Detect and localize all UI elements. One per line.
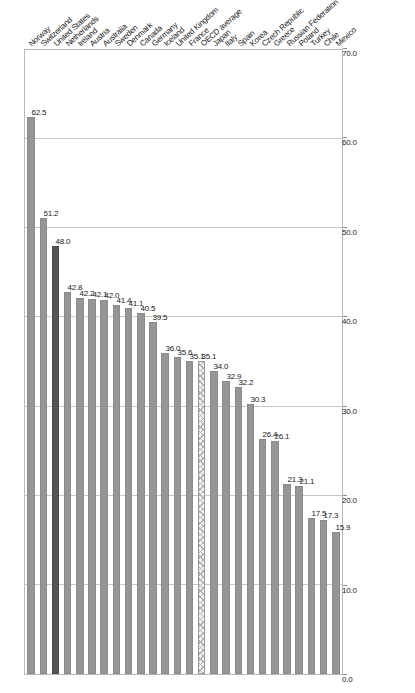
plot-area: 62.551.248.042.842.242.142.041.441.140.5…	[24, 49, 343, 675]
category-label-united-kingdom: United Kingdom	[174, 5, 220, 48]
bar-greece[interactable]	[271, 441, 279, 674]
category-label-greece: Greece	[272, 25, 297, 48]
bar-austria[interactable]	[88, 299, 96, 674]
axis-tick-label: 0.0	[342, 675, 353, 684]
bar-switzerland[interactable]	[40, 218, 48, 674]
bar-row: 17.5	[305, 50, 317, 674]
category-label-denmark: Denmark	[125, 21, 154, 48]
bar-row: 48.0	[49, 50, 61, 674]
bar-row: 62.5	[25, 50, 37, 674]
bar-ireland[interactable]	[76, 298, 84, 674]
bar-oecd-average[interactable]	[198, 361, 206, 674]
category-label-japan: Japan	[211, 28, 232, 49]
bar-spain[interactable]	[235, 387, 243, 674]
category-label-korea: Korea	[248, 28, 269, 48]
axis-tick-label: 60.0	[342, 138, 357, 147]
bar-row: 15.9	[330, 50, 342, 674]
bar-mexico[interactable]	[332, 532, 340, 674]
axis-tick-label: 20.0	[342, 496, 357, 505]
category-label-switzerland: Switzerland	[39, 15, 74, 48]
axis-tick-mark	[343, 406, 347, 407]
bar-row: 32.9	[220, 50, 232, 674]
bar-row: 34.0	[208, 50, 220, 674]
axis-tick-mark	[343, 316, 347, 317]
category-label-oecd-average: OECD average	[199, 7, 244, 48]
bar-row: 26.1	[269, 50, 281, 674]
bar-row: 35.1	[183, 50, 195, 674]
bar-row: 32.2	[232, 50, 244, 674]
axis-tick-mark	[343, 227, 347, 228]
bar-netherlands[interactable]	[64, 292, 72, 674]
category-label-netherlands: Netherlands	[64, 14, 100, 48]
category-label-spain: Spain	[236, 29, 256, 49]
category-label-iceland: Iceland	[162, 25, 186, 48]
category-label-russian-federation: Russian Federation	[285, 0, 340, 48]
bar-norway[interactable]	[27, 117, 35, 674]
category-label-mexico: Mexico	[334, 26, 358, 49]
bar-row: 36.0	[159, 50, 171, 674]
bar-value-label: 15.9	[336, 523, 351, 532]
category-label-poland: Poland	[297, 26, 321, 49]
bar-series: 62.551.248.042.842.242.142.041.441.140.5…	[25, 50, 342, 674]
category-label-czech-republic: Czech Republic	[260, 6, 306, 48]
category-label-australia: Australia	[101, 22, 129, 48]
category-label-germany: Germany	[150, 21, 179, 49]
axis-tick-label: 30.0	[342, 407, 357, 416]
rotated-figure-container: 62.551.248.042.842.242.142.041.441.140.5…	[0, 0, 415, 693]
bar-chart: 62.551.248.042.842.242.142.041.441.140.5…	[0, 0, 415, 693]
axis-tick-label: 40.0	[342, 317, 357, 326]
category-label-sweden: Sweden	[113, 23, 140, 48]
bar-sweden[interactable]	[113, 305, 121, 674]
axis-tick-mark	[343, 48, 347, 49]
category-label-ireland: Ireland	[76, 26, 99, 48]
bar-australia[interactable]	[100, 300, 108, 674]
bar-row: 42.2	[74, 50, 86, 674]
axis-tick-mark	[343, 674, 347, 675]
bar-turkey[interactable]	[308, 518, 316, 674]
bar-france[interactable]	[186, 361, 194, 674]
category-label-united-states: United States	[52, 11, 92, 48]
bar-row: 39.5	[147, 50, 159, 674]
bar-row: 42.0	[98, 50, 110, 674]
bar-row: 35.1	[196, 50, 208, 674]
bar-row: 40.5	[135, 50, 147, 674]
bar-row: 26.4	[257, 50, 269, 674]
axis-tick-label: 70.0	[342, 49, 357, 58]
bar-russian-federation[interactable]	[283, 484, 291, 674]
bar-denmark[interactable]	[125, 308, 133, 674]
bar-row: 41.4	[110, 50, 122, 674]
category-label-turkey: Turkey	[309, 26, 332, 48]
bar-row: 21.1	[293, 50, 305, 674]
bar-germany[interactable]	[149, 322, 157, 674]
axis-tick-label: 50.0	[342, 228, 357, 237]
bar-czech-republic[interactable]	[259, 439, 267, 674]
bar-row: 42.1	[86, 50, 98, 674]
category-label-italy: Italy	[223, 32, 239, 48]
axis-tick-mark	[343, 137, 347, 138]
bar-poland[interactable]	[295, 486, 303, 674]
bar-italy[interactable]	[222, 381, 230, 674]
category-label-canada: Canada	[138, 24, 164, 49]
bar-canada[interactable]	[137, 313, 145, 674]
bar-row: 21.3	[281, 50, 293, 674]
bar-row: 35.6	[171, 50, 183, 674]
bar-row: 51.2	[37, 50, 49, 674]
axis-tick-mark	[343, 585, 347, 586]
bar-row: 41.1	[123, 50, 135, 674]
bar-row: 30.3	[244, 50, 256, 674]
bar-iceland[interactable]	[161, 353, 169, 674]
bar-chile[interactable]	[320, 520, 328, 674]
bar-united-states[interactable]	[52, 246, 60, 674]
category-label-austria: Austria	[88, 26, 111, 48]
category-label-chile: Chile	[321, 30, 340, 48]
axis-tick-mark	[343, 495, 347, 496]
category-label-norway: Norway	[27, 24, 52, 48]
bar-row: 17.3	[318, 50, 330, 674]
bar-row: 42.8	[62, 50, 74, 674]
axis-tick-label: 10.0	[342, 586, 357, 595]
bar-japan[interactable]	[210, 371, 218, 674]
bar-korea[interactable]	[247, 404, 255, 674]
bar-united-kingdom[interactable]	[174, 357, 182, 674]
category-label-france: France	[187, 26, 211, 49]
